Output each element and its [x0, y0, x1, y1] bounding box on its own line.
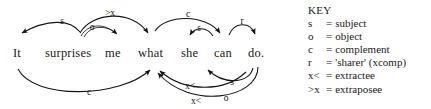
legend-equals-4: =	[323, 69, 335, 82]
legend-symbol-r: r	[308, 56, 323, 69]
legend-meaning-extraposee: extraposee	[335, 83, 382, 95]
word-it: It	[13, 44, 21, 62]
legend-meaning-object: object	[335, 30, 362, 42]
word-what: what	[138, 44, 163, 62]
arc-path-s-surprises-it	[22, 22, 80, 33]
legend-equals-3: =	[323, 56, 335, 69]
legend-equals-5: =	[323, 83, 335, 96]
arc-label-o-do-what: o	[224, 93, 229, 103]
legend-entry-extraposee: >x=extraposee	[308, 83, 431, 96]
arc-label-extractee-2: x<	[191, 96, 201, 106]
legend-key: KEY s=subject o=object c=complement r='s…	[308, 4, 431, 96]
arc-label-c-what-can: c	[186, 9, 190, 19]
word-can: can	[214, 44, 232, 62]
arc-label-extractee-1: x<	[185, 81, 195, 91]
legend-meaning-sharer: 'sharer' (xcomp)	[335, 56, 406, 68]
legend-entry-extractee: x<=extractee	[308, 69, 431, 82]
arc-path-extractee-object	[158, 67, 258, 96]
legend-entry-subject: s=subject	[308, 17, 431, 30]
arc-label-s-can-she: s	[197, 23, 201, 33]
legend-title: KEY	[308, 4, 431, 17]
legend-equals-1: =	[323, 30, 335, 43]
dependency-diagram: s >x o c s r c x< s x< o It surprises	[0, 0, 431, 109]
legend-equals-0: =	[323, 17, 335, 30]
arc-label-extraposee: >x	[105, 8, 115, 18]
word-surprises: surprises	[45, 44, 91, 62]
legend-symbol-extraposee: >x	[308, 83, 323, 96]
legend-meaning-complement: complement	[335, 43, 389, 55]
arc-label-s-do-she: s	[230, 77, 234, 87]
sentence-line: It surprises me what she can do.	[0, 44, 270, 64]
legend-meaning-subject: subject	[335, 17, 366, 29]
word-do: do.	[248, 44, 264, 62]
legend-entry-complement: c=complement	[308, 43, 431, 56]
word-me: me	[105, 44, 121, 62]
arc-path-c-what-can	[155, 18, 220, 33]
arc-path-r-can-do	[229, 25, 255, 35]
legend-entry-object: o=object	[308, 30, 431, 43]
arc-path-c-it-what	[18, 69, 150, 92]
legend-equals-2: =	[323, 43, 335, 56]
arc-label-s-surprises-it: s	[60, 16, 64, 26]
arc-label-o-surprises-me: o	[90, 22, 95, 32]
legend-symbol-s: s	[308, 17, 323, 30]
word-she: she	[181, 44, 198, 62]
legend-meaning-extractee: extractee	[335, 69, 375, 81]
arc-path-s-can-she	[190, 29, 213, 36]
legend-symbol-o: o	[308, 30, 323, 43]
arc-label-c-it-what: c	[87, 87, 91, 97]
legend-symbol-c: c	[308, 43, 323, 56]
legend-entry-sharer: r='sharer' (xcomp)	[308, 56, 431, 69]
legend-symbol-extractee: x<	[308, 69, 323, 82]
